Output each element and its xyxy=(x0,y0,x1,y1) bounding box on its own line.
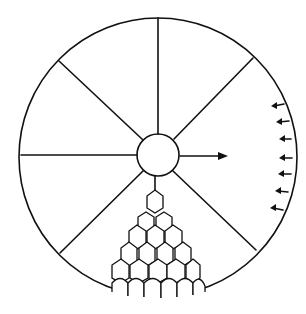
outward-arrow-icon xyxy=(180,152,228,160)
inward-arrow-icon xyxy=(275,187,288,194)
inward-arrow-icon xyxy=(278,170,291,177)
wheel-diagram xyxy=(0,0,306,314)
inward-arrow-icon xyxy=(271,102,284,109)
inward-arrow-icon xyxy=(279,135,291,142)
inward-arrow-icon xyxy=(270,204,283,211)
hexagonal-cell-cluster xyxy=(112,190,205,298)
inward-arrow-icon xyxy=(276,118,289,125)
central-hub xyxy=(137,134,179,176)
inward-arrow-icon xyxy=(279,154,292,161)
rim-arrows xyxy=(270,102,292,211)
